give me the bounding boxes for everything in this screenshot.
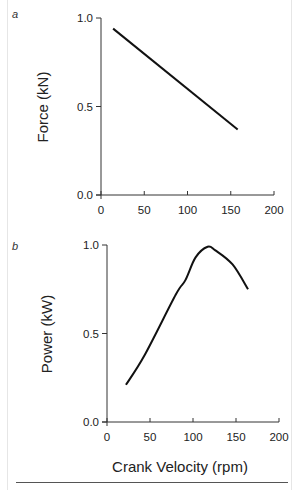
y-tick-label: 0.0 xyxy=(77,189,93,201)
y-tick-label: 1.0 xyxy=(77,12,93,24)
x-tick-label: 200 xyxy=(264,204,283,216)
x-tick-label: 50 xyxy=(138,204,151,216)
panel-b-power: b 0.00.51.0050100150200 Power (kW) Crank… xyxy=(12,239,289,475)
y-tick-label: 0.5 xyxy=(77,101,93,113)
x-axis-title: Crank Velocity (rpm) xyxy=(112,458,248,475)
figure-canvas: a 0.00.51.0050100150200 Force (kN) b 0.0… xyxy=(0,0,294,490)
y-tick-label: 0.5 xyxy=(83,328,99,340)
panel-b-letter: b xyxy=(12,240,18,252)
x-tick-label: 0 xyxy=(104,431,110,443)
bottom-rule xyxy=(16,482,288,483)
panel-a-letter: a xyxy=(12,8,18,20)
x-tick-label: 150 xyxy=(226,431,245,443)
y-tick-label: 0.0 xyxy=(83,416,99,428)
y-tick-label: 1.0 xyxy=(83,239,99,251)
panel-b-ylabel: Power (kW) xyxy=(38,295,55,373)
panel-a-force: a 0.00.51.0050100150200 Force (kN) xyxy=(12,8,284,216)
x-tick-label: 200 xyxy=(269,431,288,443)
force-line xyxy=(113,29,238,130)
x-tick-label: 100 xyxy=(178,204,197,216)
x-tick-label: 100 xyxy=(183,431,202,443)
panel-a-axes: 0.00.51.0050100150200 xyxy=(77,12,284,216)
x-tick-label: 150 xyxy=(221,204,240,216)
x-tick-label: 0 xyxy=(98,204,104,216)
panel-b-axes: 0.00.51.0050100150200 xyxy=(83,239,289,443)
power-curve xyxy=(126,246,248,384)
panel-a-ylabel: Force (kN) xyxy=(34,72,51,143)
x-tick-label: 50 xyxy=(144,431,157,443)
